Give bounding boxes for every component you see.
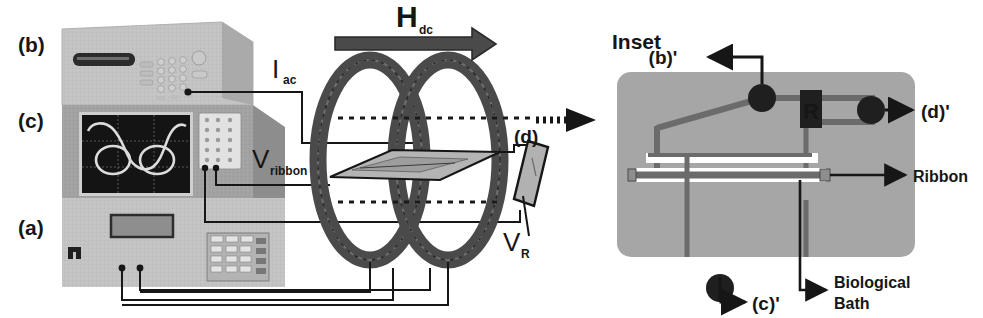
label-ribbon: Ribbon bbox=[913, 168, 968, 185]
lockin-display bbox=[111, 215, 173, 237]
callout-a: (a) bbox=[18, 216, 44, 239]
node-d-prime bbox=[857, 96, 885, 124]
instrument-lockin-amplifier bbox=[62, 198, 285, 292]
inset-panel: R bbox=[617, 57, 915, 302]
label-bath-line1: Biological bbox=[834, 274, 910, 291]
label-h-dc: H dc bbox=[396, 0, 433, 37]
callout-c: (c) bbox=[18, 109, 44, 132]
resistor-label: R bbox=[803, 99, 819, 124]
callout-d: (d) bbox=[514, 126, 538, 147]
callout-b: (b) bbox=[18, 33, 45, 56]
lockin-keypad[interactable] bbox=[207, 233, 269, 281]
figure-root: R bbox=[0, 0, 983, 318]
label-v-r-sub: R bbox=[521, 247, 530, 261]
label-i-ac: I ac bbox=[272, 54, 297, 87]
label-i-ac-sub: ac bbox=[283, 73, 297, 87]
label-h-dc-sub: dc bbox=[419, 23, 433, 37]
label-v-ribbon-sub: ribbon bbox=[270, 164, 307, 178]
inset-pointer-arrow bbox=[536, 108, 596, 132]
callout-d-prime: (d)' bbox=[921, 101, 950, 122]
callout-b-prime: (b)' bbox=[649, 47, 678, 68]
node-b-prime bbox=[748, 84, 776, 112]
callout-c-prime: (c)' bbox=[752, 293, 780, 314]
label-h-dc-base: H bbox=[396, 0, 418, 33]
series-resistor: R bbox=[800, 90, 822, 128]
schematic-canvas: R bbox=[0, 0, 983, 318]
label-v-r: V R bbox=[503, 227, 530, 261]
scope-keypad[interactable] bbox=[199, 113, 241, 169]
ribbon-sample-plate bbox=[330, 150, 500, 180]
label-bath-line2: Bath bbox=[834, 295, 870, 312]
label-v-r-base: V bbox=[503, 227, 521, 257]
label-v-ribbon-base: V bbox=[252, 144, 270, 174]
label-i-ac-base: I bbox=[272, 54, 279, 84]
